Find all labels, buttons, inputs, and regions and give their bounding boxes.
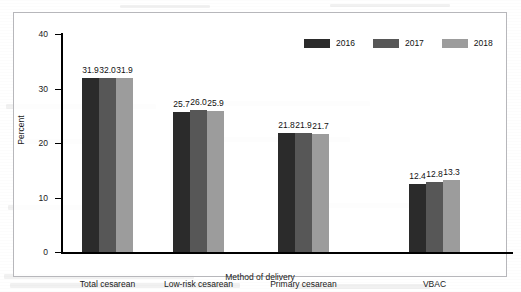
bar-value-label: 12.8 [426,170,443,179]
scan-artifact [120,5,210,8]
bar-group-bars: 12.412.813.3 [409,34,460,252]
y-axis-tick-label: 10 [24,194,48,203]
x-axis-title: Method of delivery [14,272,506,282]
legend-label: 2018 [474,39,493,48]
bar-value-label: 26.0 [190,98,207,107]
bar-value-label: 25.7 [173,100,190,109]
bar[interactable]: 25.9 [207,111,224,252]
y-axis-line [61,33,63,254]
scan-artifact [330,4,450,7]
legend-item[interactable]: 2016 [304,39,355,48]
bar-value-label: 13.3 [443,168,460,177]
bar[interactable]: 13.3 [443,180,460,252]
chart-frame: 010203040 Percent Method of delivery 31.… [13,12,507,277]
legend-item[interactable]: 2018 [442,39,493,48]
bar-group-bars: 25.726.025.9 [173,34,224,252]
legend-item[interactable]: 2017 [373,39,424,48]
bar-value-label: 31.9 [116,66,133,75]
bar-group-bars: 21.821.921.7 [278,34,329,252]
y-axis-tick [55,34,61,35]
bar[interactable]: 12.4 [409,184,426,252]
bar[interactable]: 31.9 [116,78,133,252]
bar[interactable]: 32.0 [99,78,116,252]
bar[interactable]: 21.8 [278,133,295,252]
bar[interactable]: 21.7 [312,134,329,252]
bar[interactable]: 31.9 [82,78,99,252]
y-axis-tick [55,252,61,253]
plot-area: 31.932.031.9Total cesarean25.726.025.9Lo… [62,34,510,252]
legend-swatch-icon [442,39,468,48]
bar[interactable]: 25.7 [173,112,190,252]
bar-value-label: 31.9 [82,66,99,75]
legend-label: 2016 [336,39,355,48]
y-axis-tick [55,89,61,90]
bar-group: 25.726.025.9Low-risk cesarean [173,34,224,252]
y-axis-tick [55,143,61,144]
bar[interactable]: 21.9 [295,133,312,252]
bar-group: 31.932.031.9Total cesarean [82,34,133,252]
bar[interactable]: 12.8 [426,182,443,252]
y-axis-tick-label: 30 [24,85,48,94]
legend-label: 2017 [405,39,424,48]
y-axis-tick [55,198,61,199]
chart-legend: 201620172018 [304,39,493,48]
x-axis-line [61,252,513,254]
bar[interactable]: 26.0 [190,110,207,252]
bar-value-label: 21.9 [295,121,312,130]
bar-value-label: 21.7 [312,122,329,131]
bar-group: 21.821.921.7Primary cesarean [278,34,329,252]
y-axis-tick-label: 0 [24,248,48,257]
bar-value-label: 32.0 [99,66,116,75]
legend-swatch-icon [373,39,399,48]
bar-group: 12.412.813.3VBAC [409,34,460,252]
bar-value-label: 21.8 [278,121,295,130]
bar-group-bars: 31.932.031.9 [82,34,133,252]
y-axis-tick-label: 20 [24,139,48,148]
legend-swatch-icon [304,39,330,48]
y-axis-title: Percent [16,115,26,144]
y-axis-tick-label: 40 [24,30,48,39]
bar-value-label: 12.4 [409,172,426,181]
bar-value-label: 25.9 [207,99,224,108]
